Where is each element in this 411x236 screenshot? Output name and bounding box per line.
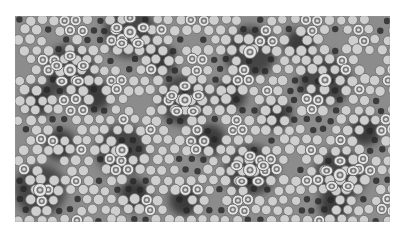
quasicrystal-pattern — [0, 0, 411, 236]
pattern-area — [13, 6, 399, 226]
